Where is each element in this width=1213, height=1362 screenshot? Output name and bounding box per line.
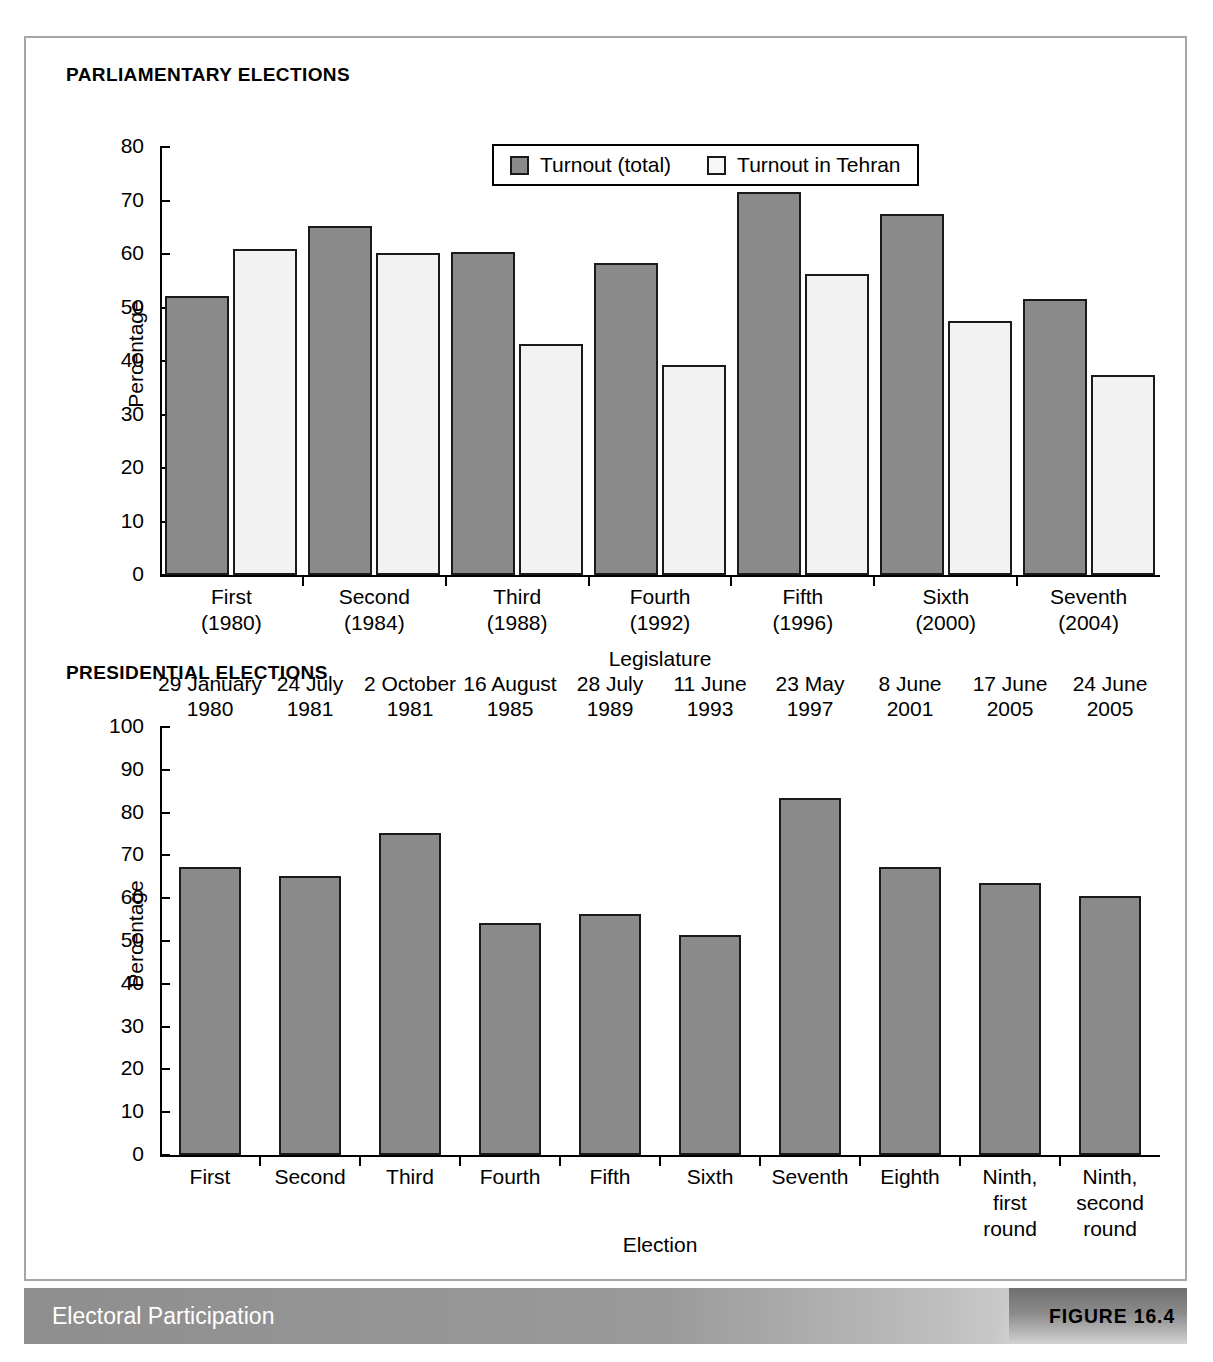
bar-group: 17 June2005 [960, 727, 1060, 1155]
figure-footer: Electoral Participation FIGURE 16.4 [24, 1288, 1187, 1344]
x-tick-label: Sixth [660, 1164, 760, 1242]
x-tick-label: Ninth,firstround [960, 1164, 1060, 1242]
x-axis-tick-labels: First(1980)Second(1984)Third(1988)Fourth… [160, 584, 1160, 636]
y-axis-title: Percentage [124, 854, 148, 1014]
chart-parliamentary-elections: 01020304050607080 Percentage Turnout (to… [160, 147, 1160, 577]
bar: 17 June2005 [979, 883, 1041, 1155]
bar-group: 8 June2001 [860, 727, 960, 1155]
y-tick-label: 20 [121, 455, 144, 479]
bar: 29 January1980 [179, 867, 241, 1155]
bar-group: 28 July1989 [560, 727, 660, 1155]
panel-parliamentary-elections: PARLIAMENTARY ELECTIONS 0102030405060708… [40, 52, 1170, 662]
x-tick-label: Fifth [560, 1164, 660, 1242]
bar-group: 29 January1980 [160, 727, 260, 1155]
bar-group [589, 147, 732, 575]
bar [308, 226, 372, 575]
x-tick-label: Third(1988) [446, 584, 589, 636]
bar [519, 344, 583, 575]
bar-group [731, 147, 874, 575]
figure-number: FIGURE 16.4 [1049, 1304, 1175, 1328]
x-tick-label: Second(1984) [303, 584, 446, 636]
bar-data-label: 23 May1997 [776, 671, 845, 721]
x-tick-label: Fourth [460, 1164, 560, 1242]
x-tick-label: Second [260, 1164, 360, 1242]
y-tick-label: 30 [121, 1014, 144, 1038]
y-tick-label: 90 [121, 757, 144, 781]
y-tick-label: 0 [132, 562, 144, 586]
bar-data-label: 8 June2001 [878, 671, 941, 721]
bar: 11 June1993 [679, 935, 741, 1155]
bar-group: 23 May1997 [760, 727, 860, 1155]
y-tick-label: 20 [121, 1056, 144, 1080]
x-tick-label: Seventh [760, 1164, 860, 1242]
bar [948, 321, 1012, 575]
bar-data-label: 17 June2005 [973, 671, 1048, 721]
bar [594, 263, 658, 575]
y-axis-title: Percentage [124, 274, 148, 434]
bar-data-label: 24 July1981 [277, 671, 344, 721]
bar: 24 July1981 [279, 876, 341, 1155]
y-tick-label: 10 [121, 1099, 144, 1123]
bar [165, 296, 229, 575]
x-axis-title: Election [160, 1233, 1160, 1257]
bar [376, 253, 440, 575]
bar [451, 252, 515, 575]
figure-caption: Electoral Participation [52, 1303, 274, 1330]
y-tick-label: 80 [121, 800, 144, 824]
figure-frame: PARLIAMENTARY ELECTIONS 0102030405060708… [24, 36, 1187, 1281]
x-tick-label: Sixth(2000) [874, 584, 1017, 636]
panel-title-parliamentary: PARLIAMENTARY ELECTIONS [66, 64, 350, 86]
bar-group: 24 July1981 [260, 727, 360, 1155]
bar [233, 249, 297, 575]
bar-data-label: 11 June1993 [673, 671, 746, 721]
bar: 24 June2005 [1079, 896, 1141, 1155]
bar: 2 October1981 [379, 833, 441, 1155]
bar-group [1017, 147, 1160, 575]
bar [1091, 375, 1155, 575]
x-tick-label: Ninth,secondround [1060, 1164, 1160, 1242]
x-tick-label: Third [360, 1164, 460, 1242]
y-tick-label: 10 [121, 509, 144, 533]
bar-group-container [160, 147, 1160, 575]
panel-presidential-elections: PRESIDENTIAL ELECTIONS 01020304050607080… [40, 662, 1170, 1262]
bar-data-label: 2 October1981 [364, 671, 456, 721]
x-tick-label: Fourth(1992) [589, 584, 732, 636]
chart-presidential-elections: 0102030405060708090100 Percentage 29 Jan… [160, 727, 1160, 1157]
x-axis-line [160, 575, 1160, 577]
x-tick-label: Eighth [860, 1164, 960, 1242]
bar: 8 June2001 [879, 867, 941, 1155]
bar-data-label: 16 August1985 [463, 671, 556, 721]
bar-group [874, 147, 1017, 575]
bar [737, 192, 801, 575]
y-tick-label: 70 [121, 188, 144, 212]
bar-data-label: 24 June2005 [1073, 671, 1148, 721]
bar: 23 May1997 [779, 798, 841, 1155]
bar-group-container: 29 January198024 July19812 October198116… [160, 727, 1160, 1155]
y-tick-label: 60 [121, 241, 144, 265]
bar-group [160, 147, 303, 575]
x-tick-label: Fifth(1996) [731, 584, 874, 636]
bar-data-label: 28 July1989 [577, 671, 644, 721]
x-tick-label: First [160, 1164, 260, 1242]
bar-group: 11 June1993 [660, 727, 760, 1155]
bar [1023, 299, 1087, 575]
bar [880, 214, 944, 575]
bar [805, 274, 869, 575]
bar-group: 2 October1981 [360, 727, 460, 1155]
bar-group [303, 147, 446, 575]
x-axis-tick-labels: FirstSecondThirdFourthFifthSixthSeventhE… [160, 1164, 1160, 1242]
x-tick-label: First(1980) [160, 584, 303, 636]
y-tick-label: 0 [132, 1142, 144, 1166]
bar-group: 16 August1985 [460, 727, 560, 1155]
bar-group [446, 147, 589, 575]
bar-group: 24 June2005 [1060, 727, 1160, 1155]
x-tick-label: Seventh(2004) [1017, 584, 1160, 636]
y-tick-label: 100 [109, 714, 144, 738]
bar [662, 365, 726, 575]
bar-data-label: 29 January1980 [158, 671, 262, 721]
y-tick-label: 80 [121, 134, 144, 158]
bar: 28 July1989 [579, 914, 641, 1155]
bar: 16 August1985 [479, 923, 541, 1155]
